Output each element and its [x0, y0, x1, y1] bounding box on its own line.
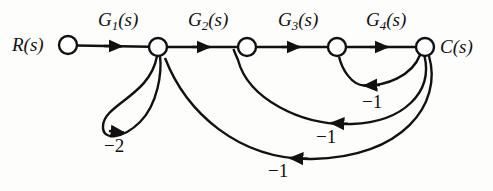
arrowhead-self-loop — [109, 131, 124, 133]
arrowhead-middle-feedback — [331, 123, 348, 124]
edge-self-loop-n1 — [103, 56, 161, 136]
output-node-label: C(s) — [440, 37, 473, 56]
weight-label-middle-feedback: −1 — [316, 127, 336, 146]
input-node-label: R(s) — [12, 35, 44, 54]
edge-r-to-n1 — [77, 46, 149, 47]
node-3 — [328, 38, 346, 56]
graph-canvas — [0, 0, 493, 191]
gain-label-g3: G3(s) — [278, 10, 318, 33]
gain-label-g4: G4(s) — [366, 10, 406, 33]
weight-label-self-loop: −2 — [104, 136, 124, 155]
gain-label-g1: G1(s) — [98, 10, 138, 33]
weight-label-inner-feedback: −1 — [362, 92, 382, 111]
weight-label-outer-feedback: −1 — [268, 161, 288, 180]
gain-label-g2: G2(s) — [188, 10, 228, 33]
node-1 — [149, 38, 167, 56]
node-output-c — [416, 38, 434, 56]
edge-c-to-n3-feedback — [339, 55, 420, 86]
arrowhead-outer-feedback — [290, 158, 308, 159]
signal-flow-graph-figure: R(s) C(s) G1(s) G2(s) G3(s) G4(s) −2 −1 … — [0, 0, 493, 191]
node-input-r — [59, 36, 77, 54]
arrowhead-inner-feedback — [364, 85, 380, 86]
edge-c-to-n1-middle-feedback — [234, 49, 426, 124]
node-2 — [238, 38, 256, 56]
edge-c-to-n1-outer-feedback — [165, 56, 432, 159]
